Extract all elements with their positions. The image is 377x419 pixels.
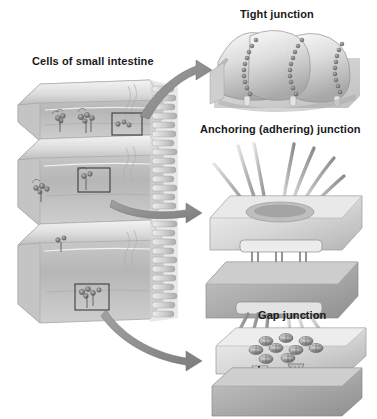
tight-junction-panel [210,30,360,112]
epithelial-cell-3 [18,220,163,323]
gap-junction-panel [212,328,366,416]
microvilli-brush-border [150,80,178,322]
label-gap-junction: Gap junction [258,309,326,321]
figure-canvas: Cells of small intestine Tight junction … [0,0,377,419]
label-anchoring-junction: Anchoring (adhering) junction [200,123,361,135]
epithelial-cell-1 [18,80,163,141]
upper-plaque [240,240,322,252]
label-tight-junction: Tight junction [240,8,314,20]
overview-cell-stack [18,80,178,323]
label-cells-of-small-intestine: Cells of small intestine [32,55,154,67]
